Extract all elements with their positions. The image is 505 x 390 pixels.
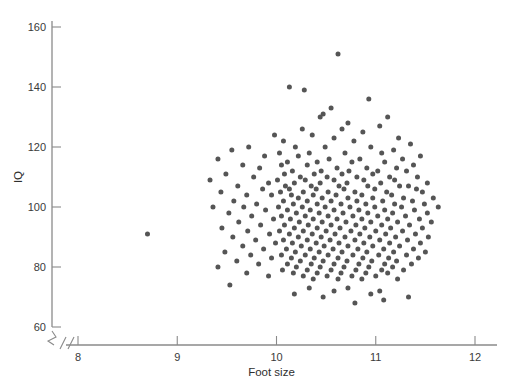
data-point [301,190,306,195]
data-point [240,244,245,249]
break-slash-2 [68,337,74,349]
data-point [289,256,294,261]
data-point [311,193,316,198]
data-point [229,148,234,153]
data-point [337,241,342,246]
y-tick-label: 80 [34,261,46,273]
data-point [310,133,315,138]
data-point [349,274,354,279]
data-point [422,202,427,207]
data-point [279,253,284,258]
x-tick-label: 8 [75,351,81,363]
data-point [332,262,337,267]
data-point [318,115,323,120]
data-point [309,262,314,267]
data-point [415,175,420,180]
data-point [359,193,364,198]
data-point [353,268,358,273]
data-point [414,187,419,192]
data-point [266,274,271,279]
data-point [395,220,400,225]
data-point [312,256,317,261]
data-point [305,268,310,273]
data-point [366,97,371,102]
data-point [287,85,292,90]
data-point [363,271,368,276]
data-point [324,229,329,234]
data-point [401,196,406,201]
data-point [230,235,235,240]
data-point [347,205,352,210]
data-point [223,172,228,177]
data-point [308,247,313,252]
data-point [409,262,414,267]
data-point [392,178,397,183]
data-point [381,298,386,303]
data-point [235,184,240,189]
data-point [336,256,341,261]
data-point [282,223,287,228]
data-point [372,205,377,210]
data-point [382,262,387,267]
data-point [350,214,355,219]
data-point [359,217,364,222]
data-point [400,229,405,234]
data-point [298,175,303,180]
data-point [393,235,398,240]
data-point [344,181,349,186]
data-point [240,163,245,168]
data-point [315,160,320,165]
data-point [350,253,355,258]
data-point [356,208,361,213]
data-point [321,295,326,300]
data-point [281,238,286,243]
data-point [405,238,410,243]
data-point [340,172,345,177]
data-point [332,178,337,183]
data-point [425,211,430,216]
data-point [271,217,276,222]
data-point [309,184,314,189]
data-point [360,256,365,261]
data-point [332,289,337,294]
data-point [290,241,295,246]
data-point [263,208,268,213]
data-point [339,202,344,207]
data-point [397,244,402,249]
data-point [326,190,331,195]
data-point [276,205,281,210]
data-point [318,265,323,270]
data-point [291,271,296,276]
data-point [296,154,301,159]
data-point [325,274,330,279]
break-slash-1 [60,337,66,349]
data-point [281,199,286,204]
data-point [361,241,366,246]
data-point [284,247,289,252]
data-point [411,247,416,252]
data-point [389,193,394,198]
data-point [407,223,412,228]
data-point [400,157,405,162]
data-point [367,235,372,240]
data-point [341,211,346,216]
data-point [406,295,411,300]
data-point [317,250,322,255]
data-point [314,187,319,192]
data-point [332,136,337,141]
y-tick-label: 100 [28,201,46,213]
data-point [375,169,380,174]
data-point [246,145,251,150]
data-point [345,196,350,201]
data-point [299,244,304,249]
data-point [342,235,347,240]
data-point [326,214,331,219]
data-point [305,238,310,243]
data-point [306,223,311,228]
data-point [325,175,330,180]
data-point [385,271,390,276]
data-point [311,217,316,222]
data-point [368,145,373,150]
data-point [404,169,409,174]
data-point [300,127,305,132]
